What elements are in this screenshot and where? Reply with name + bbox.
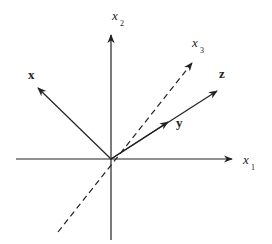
x3-axis-subscript: 3 — [200, 46, 204, 55]
x1-axis-subscript: 1 — [251, 163, 255, 172]
diagram-svg: x 1 x 2 x 3 x z y — [0, 0, 272, 244]
vector-z-label: z — [219, 66, 225, 81]
x2-axis-label: x — [111, 8, 118, 23]
vector-y — [111, 122, 168, 159]
vector-diagram: x 1 x 2 x 3 x z y — [0, 0, 272, 244]
vector-y-label: y — [176, 115, 183, 130]
x3-axis-label: x — [191, 35, 198, 50]
x1-axis-label: x — [242, 152, 249, 167]
vector-x-label: x — [28, 67, 35, 82]
vector-x — [38, 88, 111, 159]
x3-axis-dashed — [58, 63, 192, 232]
x2-axis-subscript: 2 — [120, 19, 124, 28]
